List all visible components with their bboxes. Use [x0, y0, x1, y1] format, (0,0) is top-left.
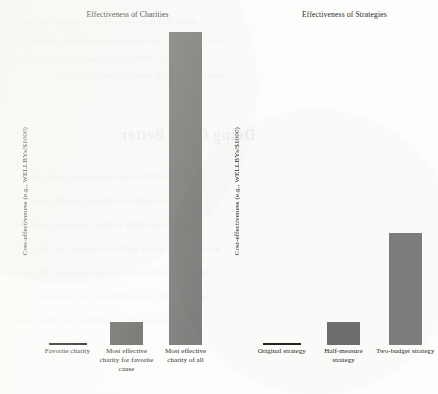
bar-slot: [38, 28, 97, 345]
bar-half-measure-strategy: [327, 322, 360, 345]
chart-panel-charities: Effectiveness of Charities Cost-effectiv…: [0, 0, 219, 394]
plot-area-charities: [38, 28, 215, 345]
y-axis-label-strategies: Cost-effectiveness (e.g., WELLBYs/$1000): [233, 127, 241, 255]
bar-original-strategy: [263, 343, 301, 345]
x-label-original-strategy: Original strategy: [251, 347, 313, 365]
bar-slot: [313, 28, 375, 345]
x-label-most-effective-charity-for-favorite-cause: Most effective charity for favorite caus…: [97, 347, 156, 375]
bar-slot: [156, 28, 215, 345]
bar-most-effective-charity-of-all: [169, 32, 202, 345]
x-label-most-effective-charity-of-all: Most effective charity of all: [156, 347, 215, 375]
bar-favorite-charity: [49, 343, 87, 345]
y-axis-label-charities: Cost-effectiveness (e.g., WELLBYs/$1000): [21, 127, 29, 255]
plot-area-strategies: [251, 28, 436, 345]
bar-group-charities: [38, 28, 215, 345]
bar-two-budget-strategy: [389, 233, 422, 345]
chart-panel-strategies: Effectiveness of Strategies Cost-effecti…: [219, 0, 438, 394]
bar-most-effective-charity-for-favorite-cause: [110, 322, 143, 345]
chart-title-charities: Effectiveness of Charities: [0, 10, 237, 19]
bar-slot: [251, 28, 313, 345]
figure-page: Effectiveness of Charities Cost-effectiv…: [0, 0, 438, 394]
chart-title-strategies: Effectiveness of Strategies: [219, 10, 438, 19]
bar-slot: [97, 28, 156, 345]
x-label-two-budget-strategy: Two-budget strategy: [374, 347, 436, 365]
x-label-favorite-charity: Favorite charity: [38, 347, 97, 375]
bar-group-strategies: [251, 28, 436, 345]
bar-slot: [374, 28, 436, 345]
x-label-half-measure-strategy: Half-measure strategy: [313, 347, 375, 365]
x-axis-labels-strategies: Original strategy Half-measure strategy …: [251, 347, 436, 365]
x-axis-labels-charities: Favorite charity Most effective charity …: [38, 347, 215, 375]
